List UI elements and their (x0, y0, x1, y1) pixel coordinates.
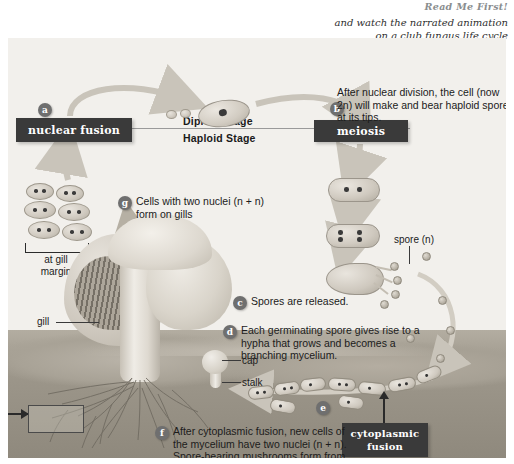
badge-f: f (155, 426, 169, 440)
inset-pointer-arrow (8, 413, 28, 415)
nucleus (345, 383, 348, 386)
club-fungus-life-cycle-figure: Read Me First! and watch the narrated an… (0, 0, 514, 464)
narration-subtitle-line1: and watch the narrated animation (0, 16, 508, 29)
callout-b-text: After nuclear division, the cell (now 2n… (337, 86, 506, 124)
cytoplasmic-fusion-arrow (383, 398, 385, 423)
nucleus (338, 383, 341, 386)
callout-g-text: Cells with two nuclei (n + n) form on gi… (136, 195, 286, 220)
hypha-cell (328, 377, 357, 392)
nucleus (263, 390, 267, 394)
nucleus (368, 387, 372, 391)
nucleus (405, 382, 409, 386)
badge-g: g (118, 196, 132, 210)
mycelium-detail-inset-box (28, 405, 84, 433)
nucleus (309, 383, 313, 387)
nucleus (290, 386, 294, 390)
cytoplasmic-fusion-line2: fusion (351, 440, 420, 453)
cytoplasmic-fusion-box: cytoplasmic fusion (342, 423, 428, 457)
badge-a: a (38, 103, 52, 117)
cytoplasmic-fusion-line1: cytoplasmic (351, 427, 420, 440)
nucleus (256, 391, 260, 395)
callout-f-text: After cytoplasmic fusion, new cells of t… (173, 425, 353, 458)
nucleus (425, 373, 429, 377)
nucleus (279, 404, 283, 408)
nucleus (398, 383, 402, 387)
badge-d: d (223, 325, 237, 339)
callout-d-text: Each germinating spore gives rise to a h… (241, 324, 421, 362)
read-me-first-label: Read Me First! (0, 1, 508, 13)
nucleus (283, 387, 287, 391)
nuclear-fusion-box: nuclear fusion (16, 118, 132, 142)
diagram-canvas: Diploid Stage Haploid Stage (8, 38, 506, 458)
nucleus (347, 400, 351, 404)
badge-c: c (233, 296, 247, 310)
callout-c-text: Spores are released. (251, 295, 431, 308)
figure-header: Read Me First! and watch the narrated an… (0, 0, 514, 40)
badge-e: e (316, 401, 330, 415)
